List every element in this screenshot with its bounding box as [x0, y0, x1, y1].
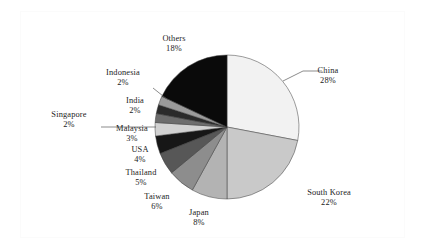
pie-chart-figure: China 28% South Korea 22% Japan 8% Taiwa…: [0, 0, 426, 249]
pie-label-others-name: Others: [148, 34, 200, 44]
pie-label-malaysia-name: Malaysia: [103, 124, 161, 134]
pie-label-india: India 2%: [113, 96, 157, 116]
pie-label-others: Others 18%: [148, 34, 200, 54]
pie-label-japan-value: 8%: [175, 218, 223, 228]
pie-label-china-name: China: [300, 66, 356, 76]
pie-slice-china[interactable]: [227, 55, 299, 140]
pie-label-indonesia-name: Indonesia: [91, 68, 155, 78]
pie-label-south-korea: South Korea 22%: [290, 188, 368, 208]
pie-label-usa-name: USA: [118, 145, 162, 155]
pie-label-indonesia: Indonesia 2%: [91, 68, 155, 88]
pie-label-usa-value: 4%: [118, 155, 162, 165]
pie-label-japan-name: Japan: [175, 208, 223, 218]
pie-label-others-value: 18%: [148, 44, 200, 54]
pie-label-singapore-value: 2%: [38, 120, 100, 130]
pie-label-usa: USA 4%: [118, 145, 162, 165]
pie-label-singapore: Singapore 2%: [38, 110, 100, 130]
pie-label-japan: Japan 8%: [175, 208, 223, 228]
pie-label-indonesia-value: 2%: [91, 78, 155, 88]
pie-slices: [155, 55, 299, 199]
pie-label-thailand-name: Thailand: [113, 168, 169, 178]
pie-label-india-name: India: [113, 96, 157, 106]
pie-label-taiwan-value: 6%: [132, 202, 182, 212]
pie-label-taiwan-name: Taiwan: [132, 192, 182, 202]
pie-label-singapore-name: Singapore: [38, 110, 100, 120]
pie-label-thailand: Thailand 5%: [113, 168, 169, 188]
pie-label-south-korea-value: 22%: [290, 198, 368, 208]
pie-label-malaysia-value: 3%: [103, 134, 161, 144]
pie-label-thailand-value: 5%: [113, 178, 169, 188]
pie-label-china-value: 28%: [300, 76, 356, 86]
pie-label-malaysia: Malaysia 3%: [103, 124, 161, 144]
pie-label-china: China 28%: [300, 66, 356, 86]
pie-label-india-value: 2%: [113, 106, 157, 116]
pie-label-south-korea-name: South Korea: [290, 188, 368, 198]
pie-label-taiwan: Taiwan 6%: [132, 192, 182, 212]
